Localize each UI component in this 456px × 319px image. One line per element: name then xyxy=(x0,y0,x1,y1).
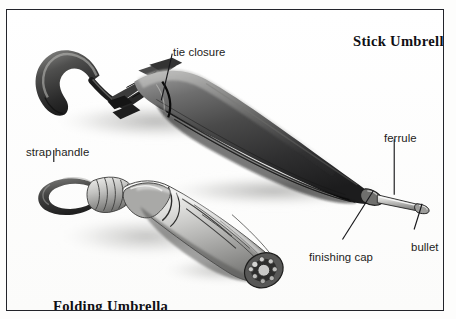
label-ferrule: ferrule xyxy=(384,132,417,144)
title-folding-umbrella: Folding Umbrella xyxy=(53,298,168,311)
label-finishing-cap: finishing cap xyxy=(309,251,373,263)
title-stick-umbrella: Stick Umbrella xyxy=(353,33,444,49)
label-strap-handle: strap handle xyxy=(26,146,89,158)
label-bullet: bullet xyxy=(411,241,439,253)
figure-plate-border: tie closure strap handle ferrule finishi… xyxy=(6,9,444,311)
label-tie-closure: tie closure xyxy=(173,46,225,58)
umbrella-parts-figure: tie closure strap handle ferrule finishi… xyxy=(0,0,456,319)
